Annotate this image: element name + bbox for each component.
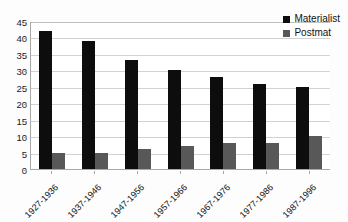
bar-postmat xyxy=(309,136,322,169)
x-tick-cell: 1977-1986 xyxy=(244,172,287,222)
legend-label: Materialist xyxy=(294,14,340,24)
legend-label: Postmat xyxy=(294,28,331,38)
x-tick-mark xyxy=(137,171,138,174)
bar-materialist xyxy=(296,87,309,169)
x-tick-cell: 1937-1946 xyxy=(73,172,116,222)
bar-materialist xyxy=(210,77,223,169)
bar-group xyxy=(287,22,330,169)
bar-postmat xyxy=(52,153,65,169)
bar-group xyxy=(159,22,202,169)
legend-swatch-icon xyxy=(283,30,290,37)
legend-item[interactable]: Postmat xyxy=(283,28,331,38)
bar-materialist xyxy=(82,41,95,169)
x-tick-mark xyxy=(223,171,224,174)
bar-postmat xyxy=(223,143,236,169)
y-tick-mark xyxy=(24,104,27,105)
y-tick-mark xyxy=(24,22,27,23)
legend-item[interactable]: Materialist xyxy=(283,14,340,24)
y-tick-mark xyxy=(24,55,27,56)
chart-legend: MaterialistPostmat xyxy=(281,13,342,39)
bars-layer xyxy=(31,22,330,169)
bar-materialist xyxy=(39,31,52,169)
bar-group xyxy=(245,22,288,169)
bar-group xyxy=(74,22,117,169)
bar-group xyxy=(116,22,159,169)
bar-materialist xyxy=(168,70,181,169)
bar-materialist xyxy=(125,60,138,169)
y-tick-mark xyxy=(24,88,27,89)
y-tick-mark xyxy=(24,137,27,138)
y-tick-mark xyxy=(24,121,27,122)
x-tick-cell: 1927-1936 xyxy=(30,172,73,222)
x-tick-cell: 1947-1956 xyxy=(116,172,159,222)
x-axis: 1927-19361937-19461947-19561957-19661967… xyxy=(30,172,330,222)
bar-group xyxy=(202,22,245,169)
bar-chart-figure: 454035302520151050 1927-19361937-1946194… xyxy=(0,0,348,222)
x-tick-cell: 1957-1966 xyxy=(159,172,202,222)
plot-area xyxy=(30,22,330,170)
x-tick-mark xyxy=(180,171,181,174)
x-tick-mark xyxy=(94,171,95,174)
y-tick-mark xyxy=(24,154,27,155)
x-tick-cell: 1967-1976 xyxy=(201,172,244,222)
bar-postmat xyxy=(181,146,194,169)
y-tick-mark xyxy=(24,38,27,39)
y-axis: 454035302520151050 xyxy=(0,22,27,170)
bar-postmat xyxy=(95,153,108,169)
y-tick-mark xyxy=(24,170,27,171)
bar-group xyxy=(31,22,74,169)
y-tick-mark xyxy=(24,71,27,72)
x-tick-label: 1927-1936 xyxy=(23,182,61,220)
legend-swatch-icon xyxy=(283,16,290,23)
x-tick-mark xyxy=(309,171,310,174)
x-tick-mark xyxy=(51,171,52,174)
bar-postmat xyxy=(266,143,279,169)
bar-materialist xyxy=(253,84,266,170)
x-tick-cell: 1987-1996 xyxy=(287,172,330,222)
x-tick-mark xyxy=(266,171,267,174)
bar-postmat xyxy=(138,149,151,169)
